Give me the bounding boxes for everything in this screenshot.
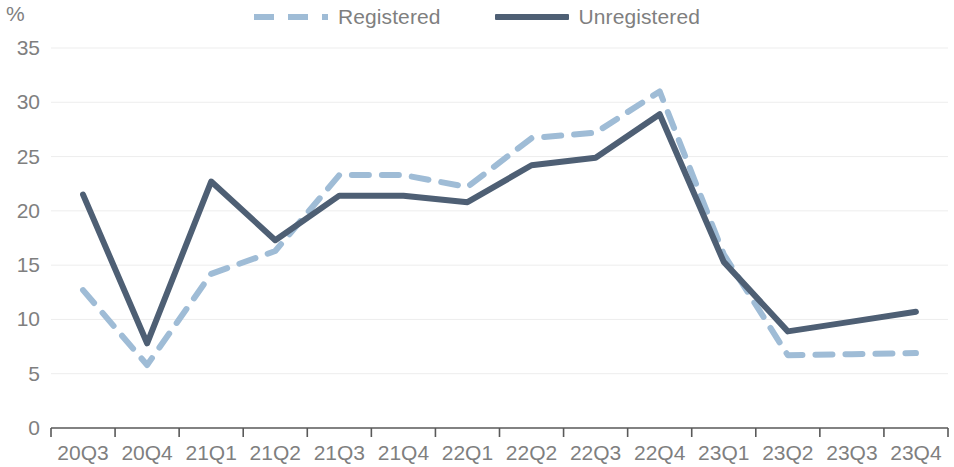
x-axis-tick-label: 20Q3 <box>57 441 108 465</box>
x-axis-tick-label: 21Q1 <box>185 441 236 465</box>
x-axis-tick-label: 22Q4 <box>634 441 685 465</box>
x-axis-tick-label: 22Q3 <box>570 441 621 465</box>
x-axis-tick-label: 22Q1 <box>442 441 493 465</box>
x-axis-tick-label: 23Q2 <box>762 441 813 465</box>
x-axis-tick-label: 23Q4 <box>890 441 941 465</box>
x-axis-tick-label: 21Q4 <box>378 441 429 465</box>
x-axis-tick-label: 23Q3 <box>826 441 877 465</box>
x-axis-tick-label: 20Q4 <box>121 441 172 465</box>
x-axis-tick-label: 21Q2 <box>250 441 301 465</box>
x-axis-tick-label: 23Q1 <box>698 441 749 465</box>
x-axis-tick-label: 22Q2 <box>506 441 557 465</box>
chart-container: Registered Unregistered % 05101520253035… <box>0 0 954 467</box>
x-axis-tick-label: 21Q3 <box>314 441 365 465</box>
x-axis-labels: 20Q320Q421Q121Q221Q321Q422Q122Q222Q322Q4… <box>0 0 954 467</box>
